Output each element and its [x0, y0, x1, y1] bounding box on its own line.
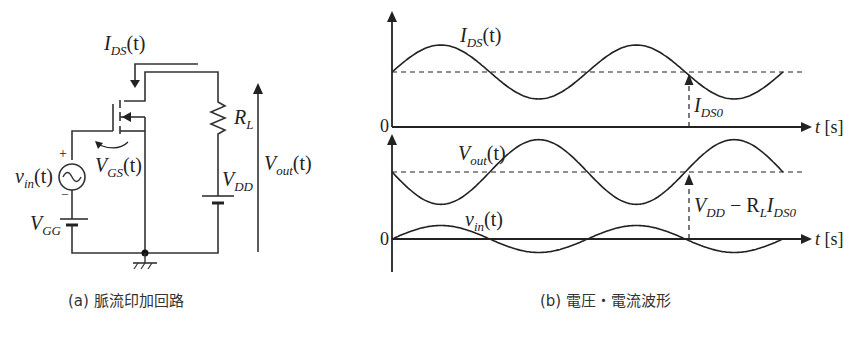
rl-label: RL — [233, 106, 253, 132]
top-origin-label: 0 — [380, 116, 389, 136]
vout-offset-arrow — [685, 174, 694, 239]
ids0-label: IDS0 — [693, 94, 724, 120]
drain-wire — [124, 72, 218, 101]
bottom-x-arrow-icon — [801, 234, 812, 244]
mosfet-icon — [72, 100, 145, 160]
figure-canvas: IDS(t) VGS(t) + — [0, 0, 851, 338]
vdd-label: VDD — [222, 168, 254, 194]
plus-sign: + — [59, 146, 67, 161]
vout-label: Vout(t) — [264, 152, 312, 178]
vdd-battery-icon — [202, 196, 234, 203]
top-y-arrow-icon — [387, 11, 397, 22]
vout-arrow-icon — [253, 83, 263, 252]
vgs-arrow-icon — [95, 141, 128, 149]
vout-offset-label: VDD − RLIDS0 — [694, 194, 796, 220]
bottom-origin-label: 0 — [380, 229, 389, 249]
vgg-battery-icon — [60, 219, 88, 225]
ids0-offset-arrow — [685, 74, 694, 127]
waveform-chart: 0 t [s] IDS(t) IDS0 0 t [s] Vout(t) vin(… — [380, 11, 844, 272]
minus-sign: − — [61, 187, 68, 202]
circuit-diagram: IDS(t) VGS(t) + — [15, 32, 312, 269]
top-x-arrow-icon — [801, 122, 812, 132]
circuit-caption: (a) 脈流印加回路 — [68, 289, 184, 310]
vgg-label: VGG — [30, 212, 62, 238]
ids-label: IDS(t) — [103, 32, 145, 58]
vin-curve-label: vin(t) — [465, 208, 503, 234]
top-xlabel: t [s] — [815, 117, 844, 137]
bottom-xlabel: t [s] — [815, 229, 844, 249]
vgs-label: VGS(t) — [95, 154, 142, 180]
ids-curve-label: IDS(t) — [459, 24, 501, 50]
waveform-caption: (b) 電圧・電流波形 — [540, 289, 671, 310]
vin-label: vin(t) — [15, 165, 53, 191]
current-arrow-icon — [130, 64, 198, 88]
vout-curve-label: Vout(t) — [458, 142, 506, 168]
